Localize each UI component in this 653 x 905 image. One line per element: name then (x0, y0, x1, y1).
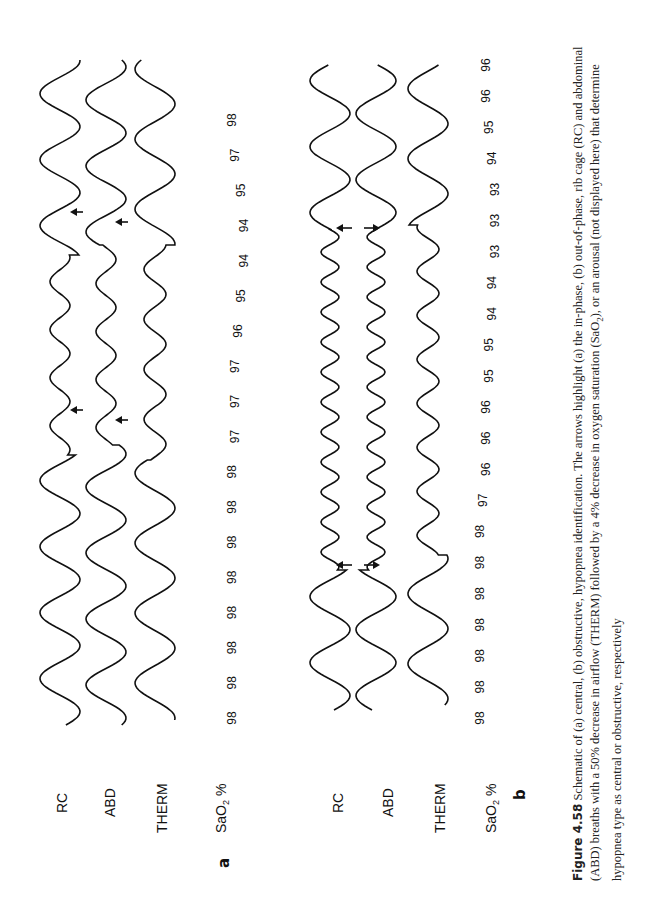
sao2-value: 94 (485, 276, 499, 289)
sao2-value: 98 (473, 556, 487, 569)
panel-a-abd-arrow-1 (115, 416, 128, 424)
panel-a-therm-trace (135, 60, 175, 720)
sao2-value: 95 (234, 184, 248, 197)
figure-page: RC ABD THERM SaO2 % a RC ABD THERM SaO2 … (0, 0, 653, 905)
figure-caption: Figure 4.58 Schematic of (a) central, (b… (570, 21, 626, 881)
panel-a-rc-trace (40, 60, 80, 725)
panel-b-abd-trace (356, 65, 396, 710)
sao2-value: 98 (225, 641, 239, 654)
sao2-value: 94 (237, 219, 251, 232)
sao2-value: 96 (479, 89, 493, 102)
respiratory-traces (0, 0, 653, 905)
sao2-value: 95 (482, 121, 496, 134)
sao2-value: 93 (488, 183, 502, 196)
panel-b-rc-arrow-2 (336, 224, 352, 232)
panel-b-rc-trace (310, 65, 350, 710)
sao2-value: 98 (225, 571, 239, 584)
sao2-value: 97 (228, 360, 242, 373)
sao2-value: 98 (225, 113, 239, 126)
sao2-value: 98 (473, 680, 487, 693)
sao2-value: 98 (225, 535, 239, 548)
sao2-value: 98 (473, 587, 487, 600)
sao2-value: 98 (225, 465, 239, 478)
panel-b-therm-trace (408, 65, 448, 705)
sao2-value: 96 (231, 324, 245, 337)
panel-a-abd-arrow-2 (115, 218, 128, 226)
sao2-value: 97 (228, 395, 242, 408)
caption-subscript: 2 (595, 317, 605, 322)
sao2-value: 94 (485, 152, 499, 165)
sao2-value: 98 (225, 606, 239, 619)
sao2-value: 98 (473, 618, 487, 631)
sao2-value: 94 (237, 254, 251, 267)
sao2-value: 97 (228, 149, 242, 162)
sao2-value: 98 (225, 711, 239, 724)
sao2-value: 93 (488, 245, 502, 258)
sao2-value: 98 (473, 525, 487, 538)
sao2-value: 95 (234, 289, 248, 302)
sao2-value: 96 (479, 58, 493, 71)
sao2-value: 96 (479, 463, 493, 476)
sao2-value: 94 (485, 307, 499, 320)
sao2-value: 98 (225, 676, 239, 689)
sao2-value: 97 (476, 494, 490, 507)
figure-number: Figure 4.58 (571, 804, 585, 881)
panel-a-abd-trace (86, 60, 126, 725)
panel-a-rc-arrow-2 (70, 208, 83, 216)
sao2-value: 98 (225, 500, 239, 513)
sao2-value: 96 (479, 431, 493, 444)
sao2-value: 98 (473, 649, 487, 662)
sao2-value: 95 (482, 338, 496, 351)
panel-b-abd-arrow-2 (364, 224, 380, 232)
sao2-value: 97 (228, 430, 242, 443)
sao2-value: 95 (482, 369, 496, 382)
sao2-value: 98 (473, 711, 487, 724)
sao2-value: 93 (488, 214, 502, 227)
panel-a-rc-arrow-1 (70, 406, 83, 414)
sao2-value: 96 (479, 400, 493, 413)
